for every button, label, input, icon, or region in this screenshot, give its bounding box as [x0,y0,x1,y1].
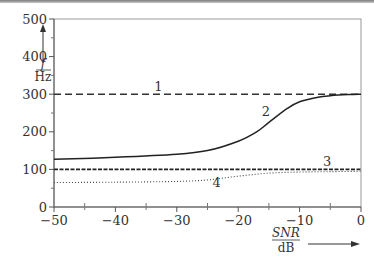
y-label-denominator: Hz [35,70,52,84]
series-label-4: 4 [213,175,221,190]
chart-figure: 0100200300400500−50−40−30−20−100 1234 f … [0,0,374,260]
x-tick-label: −20 [224,213,251,228]
plot-frame [54,19,361,207]
x-label-denominator: dB [278,241,295,255]
axes: 0100200300400500−50−40−30−20−100 [22,12,365,229]
y-tick-label: 300 [22,87,47,102]
frequency-vs-snr-chart: 0100200300400500−50−40−30−20−100 1234 f … [0,0,374,260]
x-tick-label: −40 [102,213,129,228]
series-line-4 [54,171,361,182]
y-tick-label: 100 [22,162,47,177]
x-axis-arrow-icon [351,241,360,247]
y-tick-label: 500 [22,12,47,27]
x-tick-label: −30 [163,213,190,228]
series-line-2 [54,94,361,159]
series-label-1: 1 [154,79,162,94]
series-label-2: 2 [262,104,270,119]
x-label-numerator: SNR [272,226,300,240]
series-group: 1234 [54,79,361,190]
series-label-3: 3 [323,154,331,169]
y-tick-label: 200 [22,124,47,139]
x-tick-label: 0 [357,213,365,228]
x-tick-label: −50 [40,213,67,228]
